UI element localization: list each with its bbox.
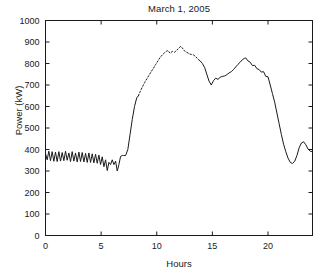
data-series-layer xyxy=(46,46,313,171)
x-tick-label: 20 xyxy=(263,241,273,251)
y-tick-label: 300 xyxy=(24,166,39,176)
y-axis-ticks: 01002003004005006007008009001000 xyxy=(19,16,312,241)
data-line xyxy=(200,58,312,164)
y-tick-label: 0 xyxy=(34,231,39,241)
y-tick-label: 100 xyxy=(24,209,39,219)
y-tick-label: 600 xyxy=(24,102,39,112)
y-tick-label: 900 xyxy=(24,37,39,47)
y-tick-label: 800 xyxy=(24,59,39,69)
y-tick-label: 400 xyxy=(24,145,39,155)
data-line xyxy=(46,96,139,171)
plot-frame xyxy=(46,21,313,236)
axes-box xyxy=(46,21,313,236)
x-tick-label: 0 xyxy=(43,241,48,251)
y-tick-label: 500 xyxy=(24,123,39,133)
x-tick-label: 15 xyxy=(207,241,217,251)
chart-figure: March 1, 2005 01002003004005006007008009… xyxy=(0,0,323,278)
data-line xyxy=(138,46,200,95)
x-axis-ticks: 05101520 xyxy=(43,21,273,251)
y-tick-label: 700 xyxy=(24,80,39,90)
y-tick-label: 200 xyxy=(24,188,39,198)
x-tick-label: 5 xyxy=(99,241,104,251)
x-axis-label: Hours xyxy=(45,258,313,269)
plot-canvas: 01002003004005006007008009001000 0510152… xyxy=(0,0,323,278)
y-tick-label: 1000 xyxy=(19,16,39,26)
y-axis-label: Power (kW) xyxy=(13,71,24,151)
x-tick-label: 10 xyxy=(152,241,162,251)
